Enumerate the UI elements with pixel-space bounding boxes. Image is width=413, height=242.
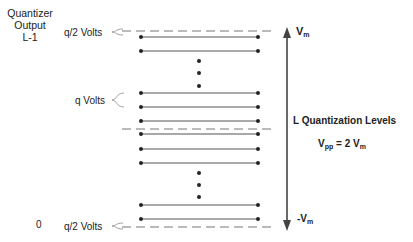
quantization-level xyxy=(139,91,260,95)
level-endpoint-dot xyxy=(139,49,143,53)
bottom-half-step-label: q/2 Volts xyxy=(64,221,102,232)
level-endpoint-dot xyxy=(139,91,143,95)
vmin-label: -Vm xyxy=(297,213,313,227)
level-endpoint-dot xyxy=(256,161,260,165)
ellipsis-dot xyxy=(197,59,201,63)
quantizer-output-line2: Output xyxy=(2,19,58,31)
level-endpoint-dot xyxy=(256,217,260,221)
level-endpoint-dot xyxy=(139,147,143,151)
step-label: q Volts xyxy=(75,95,105,106)
level-endpoint-dot xyxy=(139,161,143,165)
ellipsis-dot xyxy=(197,71,201,75)
level-endpoint-dot xyxy=(139,119,143,123)
quantization-level xyxy=(139,49,260,53)
top-level-index: L-1 xyxy=(2,31,58,43)
top-half-step-label: q/2 Volts xyxy=(64,27,102,38)
quantization-level xyxy=(139,217,260,221)
level-endpoint-dot xyxy=(139,132,143,136)
level-endpoint-dot xyxy=(256,132,260,136)
level-endpoint-dot xyxy=(256,49,260,53)
level-endpoint-dot xyxy=(256,35,260,39)
quantizer-output-line1: Quantizer xyxy=(2,7,58,19)
vpp-equation: Vpp = 2 Vm xyxy=(318,138,366,152)
quantizer-output-label: Quantizer Output L-1 xyxy=(2,7,58,43)
step-brace-icon xyxy=(112,93,124,107)
level-endpoint-dot xyxy=(256,119,260,123)
quantization-level xyxy=(139,105,260,109)
ellipsis-dot xyxy=(197,195,201,199)
level-endpoint-dot xyxy=(256,91,260,95)
quantization-level xyxy=(139,203,260,207)
bottom-level-index: 0 xyxy=(36,219,42,230)
level-endpoint-dot xyxy=(256,147,260,151)
quantization-level xyxy=(139,119,260,123)
level-endpoint-dot xyxy=(139,105,143,109)
quantization-level xyxy=(139,161,260,165)
quantization-level xyxy=(139,132,260,136)
top-half-step-brace-icon xyxy=(112,29,123,35)
vmax-label: Vm xyxy=(296,26,310,40)
double-arrow-icon xyxy=(283,27,291,231)
level-endpoint-dot xyxy=(256,105,260,109)
ellipsis-dot xyxy=(197,183,201,187)
ellipsis-dot xyxy=(197,171,201,175)
level-endpoint-dot xyxy=(256,203,260,207)
quantization-level xyxy=(139,147,260,151)
quantization-level xyxy=(139,35,260,39)
level-endpoint-dot xyxy=(139,203,143,207)
level-endpoint-dot xyxy=(139,35,143,39)
bottom-half-step-brace-icon xyxy=(112,223,123,229)
level-endpoint-dot xyxy=(139,217,143,221)
levels-title: L Quantization Levels xyxy=(293,115,396,126)
ellipsis-dot xyxy=(197,84,201,88)
